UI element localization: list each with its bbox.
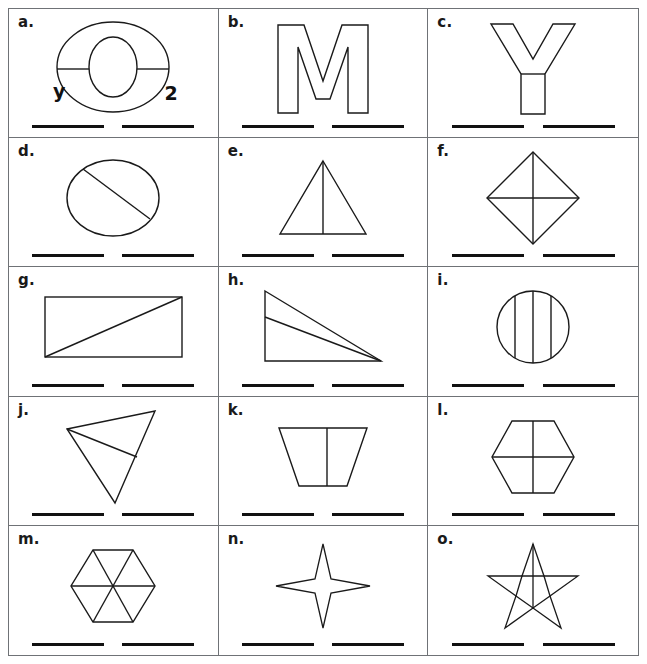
answer-line-2[interactable] xyxy=(543,643,615,646)
grid-cell-n[interactable]: n. xyxy=(219,526,429,655)
answer-line-1[interactable] xyxy=(242,384,314,387)
answer-line-2[interactable] xyxy=(122,254,194,257)
answer-line-2[interactable] xyxy=(122,125,194,128)
answer-lines-g xyxy=(9,384,218,387)
answer-lines-n xyxy=(219,643,428,646)
answer-line-1[interactable] xyxy=(242,643,314,646)
cell-extra-label-y: y xyxy=(53,82,65,101)
answer-lines-h xyxy=(219,384,428,387)
answer-lines-d xyxy=(9,254,218,257)
answer-line-2[interactable] xyxy=(332,384,404,387)
answer-lines-c xyxy=(428,125,638,128)
answer-lines-i xyxy=(428,384,638,387)
shape-trapezoid-with-vertical-line xyxy=(219,397,428,525)
cell-label-l: l. xyxy=(437,403,448,418)
cell-extra-label-2: 2 xyxy=(164,84,177,103)
answer-line-1[interactable] xyxy=(242,125,314,128)
cell-label-g: g. xyxy=(18,273,35,288)
grid-cell-l[interactable]: l. xyxy=(428,397,638,526)
answer-lines-o xyxy=(428,643,638,646)
answer-line-2[interactable] xyxy=(332,125,404,128)
answer-line-2[interactable] xyxy=(122,384,194,387)
answer-line-1[interactable] xyxy=(32,384,104,387)
answer-line-1[interactable] xyxy=(452,384,524,387)
cell-label-b: b. xyxy=(228,15,245,30)
cell-label-d: d. xyxy=(18,144,35,159)
answer-lines-l xyxy=(428,513,638,516)
cell-label-n: n. xyxy=(228,532,245,547)
answer-line-1[interactable] xyxy=(32,643,104,646)
answer-lines-k xyxy=(219,513,428,516)
answer-line-1[interactable] xyxy=(242,513,314,516)
answer-line-2[interactable] xyxy=(332,513,404,516)
answer-lines-m xyxy=(9,643,218,646)
shape-hexagon-with-cross xyxy=(428,397,638,525)
answer-line-1[interactable] xyxy=(452,643,524,646)
cell-label-m: m. xyxy=(18,532,40,547)
grid-cell-g[interactable]: g. xyxy=(9,267,219,396)
shape-hexagon-with-six-triangles xyxy=(9,526,218,655)
shape-four-pointed-star xyxy=(219,526,428,655)
grid-cell-k[interactable]: k. xyxy=(219,397,429,526)
shape-grid: a. y 2 b. xyxy=(9,9,638,655)
answer-line-1[interactable] xyxy=(242,254,314,257)
answer-line-1[interactable] xyxy=(32,513,104,516)
cell-label-o: o. xyxy=(437,532,453,547)
answer-line-1[interactable] xyxy=(452,125,524,128)
grid-cell-o[interactable]: o. xyxy=(428,526,638,655)
cell-label-i: i. xyxy=(437,273,448,288)
grid-cell-m[interactable]: m. xyxy=(9,526,219,655)
grid-cell-h[interactable]: h. xyxy=(219,267,429,396)
shape-triangle-with-vertical-median xyxy=(219,138,428,266)
shape-rhombus-with-both-diagonals xyxy=(428,138,638,266)
answer-line-2[interactable] xyxy=(543,125,615,128)
cell-label-c: c. xyxy=(437,15,452,30)
cell-label-k: k. xyxy=(228,403,244,418)
answer-line-2[interactable] xyxy=(543,384,615,387)
grid-cell-i[interactable]: i. xyxy=(428,267,638,396)
shape-circle-with-three-vertical-chords xyxy=(428,267,638,395)
shape-block-letter-m xyxy=(219,9,428,137)
answer-line-1[interactable] xyxy=(452,513,524,516)
shape-right-triangle-with-cevian xyxy=(219,267,428,395)
grid-cell-c[interactable]: c. xyxy=(428,9,638,138)
answer-lines-j xyxy=(9,513,218,516)
answer-line-1[interactable] xyxy=(32,254,104,257)
answer-line-2[interactable] xyxy=(122,643,194,646)
cell-label-a: a. xyxy=(18,15,34,30)
answer-line-2[interactable] xyxy=(332,643,404,646)
shape-five-pointed-star-with-pentagon xyxy=(428,526,638,655)
shape-scalene-triangle-with-cevian xyxy=(9,397,218,525)
answer-lines-b xyxy=(219,125,428,128)
grid-cell-e[interactable]: e. xyxy=(219,138,429,267)
cell-label-h: h. xyxy=(228,273,245,288)
answer-line-2[interactable] xyxy=(122,513,194,516)
grid-cell-b[interactable]: b. xyxy=(219,9,429,138)
grid-cell-a[interactable]: a. y 2 xyxy=(9,9,219,138)
answer-line-2[interactable] xyxy=(543,254,615,257)
answer-line-2[interactable] xyxy=(543,513,615,516)
shape-rectangle-with-diagonal xyxy=(9,267,218,395)
shape-block-letter-y xyxy=(428,9,638,137)
cell-label-e: e. xyxy=(228,144,244,159)
answer-line-1[interactable] xyxy=(32,125,104,128)
cell-label-j: j. xyxy=(18,403,29,418)
answer-line-1[interactable] xyxy=(452,254,524,257)
grid-cell-f[interactable]: f. xyxy=(428,138,638,267)
shape-block-letter-o xyxy=(9,9,218,137)
shape-ellipse-with-diagonal-chord xyxy=(9,138,218,266)
grid-cell-j[interactable]: j. xyxy=(9,397,219,526)
cell-label-f: f. xyxy=(437,144,449,159)
answer-lines-e xyxy=(219,254,428,257)
answer-lines-a xyxy=(9,125,218,128)
answer-line-2[interactable] xyxy=(332,254,404,257)
answer-lines-f xyxy=(428,254,638,257)
grid-cell-d[interactable]: d. xyxy=(9,138,219,267)
worksheet-sheet: a. y 2 b. xyxy=(8,8,639,656)
